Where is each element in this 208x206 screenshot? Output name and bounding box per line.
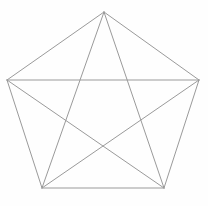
diagonal-CE: [7, 80, 164, 188]
diagonal-AD: [42, 12, 104, 188]
diagonal-AC: [104, 12, 164, 188]
edge-group: [7, 12, 199, 188]
diagonal-BD: [42, 80, 199, 188]
pentagon-diagram: [0, 0, 208, 206]
side-DE: [7, 80, 42, 188]
side-BC: [164, 80, 199, 188]
side-AB: [104, 12, 199, 80]
pentagon-diagram-svg: [0, 0, 208, 206]
side-EA: [7, 12, 104, 80]
